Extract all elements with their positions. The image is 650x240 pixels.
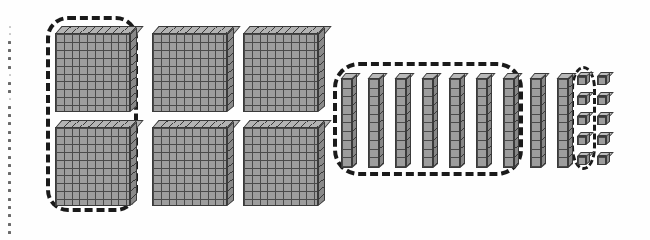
rod-front-face <box>341 78 352 168</box>
perforation-dot <box>8 181 11 184</box>
perforation-dot <box>8 156 11 159</box>
worksheet-canvas: Base-Ten Blocks Regrouping Worksheet <box>0 0 650 240</box>
rod-side-face <box>379 74 384 168</box>
perforation-dot <box>8 122 11 125</box>
flat-front-face <box>55 127 130 206</box>
rod-side-face <box>433 74 438 168</box>
rod-side-face <box>541 74 546 168</box>
perforation-dot <box>8 82 11 85</box>
perforation-dot <box>9 98 11 100</box>
flat-front-face <box>152 127 227 206</box>
perforation-dot <box>8 49 11 52</box>
unit-front-face <box>577 156 586 165</box>
unit-front-face <box>577 116 586 125</box>
rod-front-face <box>503 78 514 168</box>
unit-front-face <box>597 96 606 105</box>
perforation-dot <box>8 231 11 234</box>
perforation-dot <box>8 114 11 117</box>
rod-front-face <box>476 78 487 168</box>
rod-front-face <box>368 78 379 168</box>
unit-side-face <box>586 132 590 145</box>
flat-side-face <box>130 27 137 112</box>
perforation-dot <box>8 41 11 44</box>
perforation-dot <box>8 223 11 226</box>
flat-front-face <box>55 33 130 112</box>
flat-6 <box>243 120 325 206</box>
unit-front-face <box>577 136 586 145</box>
flat-side-face <box>227 121 234 206</box>
unit-5 <box>577 112 590 125</box>
unit-side-face <box>606 132 610 145</box>
unit-7 <box>577 132 590 145</box>
flat-5 <box>152 120 234 206</box>
rod-side-face <box>406 74 411 168</box>
perforation-dot <box>8 198 11 201</box>
rod-8 <box>530 73 545 168</box>
unit-1 <box>577 72 590 85</box>
flat-front-face <box>243 33 318 112</box>
rod-side-face <box>352 74 357 168</box>
flat-side-face <box>318 27 325 112</box>
rod-4 <box>422 73 437 168</box>
perforation-dot <box>9 26 11 28</box>
perforation-dot <box>8 164 11 167</box>
perforation-dot <box>8 66 11 69</box>
unit-4 <box>597 92 610 105</box>
flat-4 <box>55 120 137 206</box>
unit-3 <box>577 92 590 105</box>
unit-side-face <box>606 112 610 125</box>
rod-1 <box>341 73 356 168</box>
flat-3 <box>243 26 325 112</box>
flat-front-face <box>243 127 318 206</box>
perforation-dot <box>8 106 11 109</box>
flat-side-face <box>130 121 137 206</box>
perforation-dot <box>8 189 11 192</box>
unit-9 <box>577 152 590 165</box>
unit-front-face <box>577 96 586 105</box>
unit-front-face <box>597 76 606 85</box>
rod-side-face <box>460 74 465 168</box>
left-edge-dotted-perforation <box>7 26 12 234</box>
rod-side-face <box>487 74 492 168</box>
rod-front-face <box>557 78 568 168</box>
unit-side-face <box>586 72 590 85</box>
perforation-dot <box>8 131 11 134</box>
rod-front-face <box>449 78 460 168</box>
perforation-dot <box>8 172 11 175</box>
rod-front-face <box>395 78 406 168</box>
unit-front-face <box>597 116 606 125</box>
unit-front-face <box>597 136 606 145</box>
unit-side-face <box>586 112 590 125</box>
perforation-dot <box>8 214 11 217</box>
unit-side-face <box>586 92 590 105</box>
unit-2 <box>597 72 610 85</box>
unit-8 <box>597 132 610 145</box>
unit-10 <box>597 152 610 165</box>
flat-side-face <box>318 121 325 206</box>
rod-side-face <box>514 74 519 168</box>
perforation-dot <box>8 206 11 209</box>
rod-9 <box>557 73 572 168</box>
perforation-dot <box>9 33 11 35</box>
rod-front-face <box>422 78 433 168</box>
flat-front-face <box>152 33 227 112</box>
perforation-dot <box>8 90 11 93</box>
rod-7 <box>503 73 518 168</box>
perforation-dot <box>8 139 11 142</box>
unit-front-face <box>577 76 586 85</box>
perforation-dot <box>9 74 11 76</box>
rod-6 <box>476 73 491 168</box>
rod-5 <box>449 73 464 168</box>
flat-2 <box>152 26 234 112</box>
unit-front-face <box>597 156 606 165</box>
flat-1 <box>55 26 137 112</box>
unit-side-face <box>606 152 610 165</box>
rod-side-face <box>568 74 573 168</box>
flat-side-face <box>227 27 234 112</box>
unit-side-face <box>586 152 590 165</box>
unit-side-face <box>606 72 610 85</box>
unit-side-face <box>606 92 610 105</box>
rod-front-face <box>530 78 541 168</box>
perforation-dot <box>8 57 11 60</box>
rod-3 <box>395 73 410 168</box>
